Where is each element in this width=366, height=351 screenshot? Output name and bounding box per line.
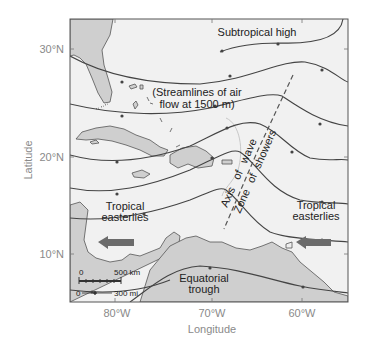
lon-tick-60: 60°W: [288, 307, 316, 319]
lon-tick-70: 70°W: [198, 307, 226, 319]
label-subtropical-high: Subtropical high: [218, 26, 297, 38]
label-tropical-right-2: easterlies: [292, 210, 340, 222]
puerto-rico-landmass: [222, 160, 232, 164]
easterly-wave-map: Subtropical high (Streamlines of air flo…: [0, 0, 366, 351]
scale-mi-zero: 0: [76, 289, 81, 298]
y-axis-title: Latitude: [22, 140, 34, 179]
scale-mi-label: 300 mi: [114, 289, 138, 298]
label-tropical-left-2: easterlies: [101, 211, 149, 223]
scale-km-zero: 0: [79, 268, 84, 277]
lat-tick-30: 30°N: [39, 43, 64, 55]
x-axis-title: Longitude: [188, 323, 236, 335]
lat-tick-20: 20°N: [39, 151, 64, 163]
lon-tick-80: 80°W: [103, 307, 131, 319]
scale-km-label: 500 km: [114, 268, 141, 277]
label-streamlines-1: (Streamlines of air: [152, 86, 242, 98]
label-streamlines-2: flow at 1500 m): [159, 98, 234, 110]
label-equatorial-2: trough: [188, 283, 219, 295]
lat-tick-10: 10°N: [39, 248, 64, 260]
